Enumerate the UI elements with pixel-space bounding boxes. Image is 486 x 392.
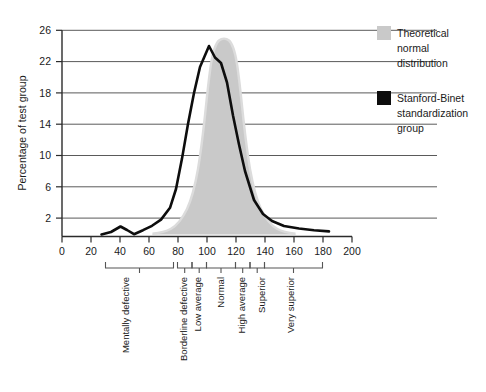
category-label-normal: Normal bbox=[215, 277, 226, 308]
iq-distribution-chart: 26 22 18 14 10 6 2 Percentage of test gr… bbox=[0, 0, 486, 392]
y-axis-title: Percentage of test group bbox=[16, 75, 28, 190]
ytick-label-6: 6 bbox=[45, 181, 51, 193]
ytick-label-14: 14 bbox=[39, 118, 51, 130]
xtick-label-140: 140 bbox=[256, 245, 274, 257]
chart-figure: 26 22 18 14 10 6 2 Percentage of test gr… bbox=[0, 0, 486, 392]
legend-label-theoretical-line3: distribution bbox=[397, 57, 448, 69]
xtick-label-120: 120 bbox=[227, 245, 245, 257]
xtick-label-160: 160 bbox=[285, 245, 303, 257]
xtick-label-80: 80 bbox=[172, 245, 184, 257]
xtick-label-40: 40 bbox=[114, 245, 126, 257]
legend-swatch-theoretical bbox=[377, 26, 391, 40]
ytick-label-10: 10 bbox=[39, 149, 51, 161]
ytick-label-26: 26 bbox=[39, 24, 51, 36]
ytick-label-22: 22 bbox=[39, 55, 51, 67]
legend-label-stanford-binet-line2: standardization bbox=[397, 107, 468, 119]
legend-label-theoretical-line1: Theoretical bbox=[397, 27, 449, 39]
xtick-label-0: 0 bbox=[59, 245, 65, 257]
xtick-label-100: 100 bbox=[198, 245, 216, 257]
xtick-label-60: 60 bbox=[143, 245, 155, 257]
ytick-label-2: 2 bbox=[45, 212, 51, 224]
category-label-low-average: Low average bbox=[192, 277, 203, 331]
legend-swatch-stanford-binet bbox=[377, 91, 391, 105]
category-label-borderline-defective: Borderline defective bbox=[178, 277, 189, 361]
legend-label-stanford-binet-line3: group bbox=[397, 122, 424, 134]
category-label-high-average: High average bbox=[236, 277, 247, 334]
legend-label-theoretical-line2: normal bbox=[397, 42, 429, 54]
legend-label-stanford-binet-line1: Stanford-Binet bbox=[397, 92, 464, 104]
category-label-very-superior: Very superior bbox=[285, 277, 296, 333]
xtick-label-200: 200 bbox=[343, 245, 361, 257]
ytick-label-18: 18 bbox=[39, 87, 51, 99]
category-label-mentally-defective: Mentally defective bbox=[120, 277, 131, 353]
category-label-superior: Superior bbox=[256, 277, 267, 313]
xtick-label-180: 180 bbox=[314, 245, 332, 257]
xtick-label-20: 20 bbox=[85, 245, 97, 257]
